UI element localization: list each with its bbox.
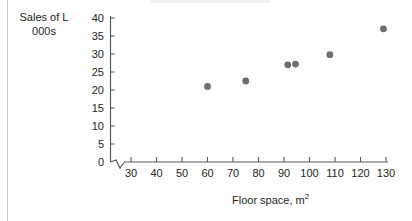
- x-axis-tick-labels: 30 40 50 60 70 80 90 100 110 120 130: [0, 0, 412, 221]
- chart-figure: Sales of L 000s 40 35 30 25 20 15 10 5 0: [0, 0, 412, 221]
- x-axis-title-superscript: 2: [305, 192, 309, 201]
- x-tick-label: 130: [371, 168, 401, 179]
- x-axis-title-base: Floor space, m: [232, 194, 305, 206]
- scatter-plot: Sales of L 000s 40 35 30 25 20 15 10 5 0: [0, 0, 412, 221]
- x-axis-title: Floor space, m2: [232, 194, 309, 206]
